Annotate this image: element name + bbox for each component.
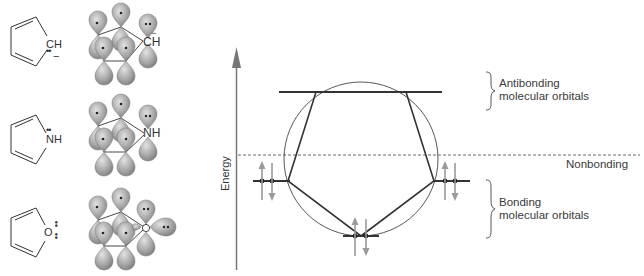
frost-circle: [284, 82, 438, 236]
energy-axis: [232, 47, 241, 270]
cyclopentadienyl-ring-structure: [11, 17, 47, 66]
cp-orbital-charge: −: [151, 27, 156, 39]
antibonding-label: Antibonding molecular orbitals: [499, 77, 589, 103]
antibonding-label-line1: Antibonding: [499, 77, 589, 90]
bonding-label: Bonding molecular orbitals: [499, 196, 589, 222]
electron-arrows: [259, 161, 459, 256]
bonding-brace-icon: [486, 180, 495, 238]
inscribed-pentagon: [288, 92, 434, 236]
furan-lone-pair-bottom: ••: [50, 233, 62, 239]
furan-lone-pair-top: ••: [50, 221, 62, 227]
bonding-label-line1: Bonding: [499, 196, 589, 209]
aromatic-heterocycles-frost-diagram: CH •• − CH − NH •• NH O •• •• Energy Ant…: [0, 0, 644, 276]
pyrrole-orbital-nh-label: NH: [143, 127, 160, 139]
energy-axis-label: Energy: [219, 156, 231, 191]
nonbonding-label: Nonbonding: [566, 158, 628, 171]
antibonding-label-line2: molecular orbitals: [499, 90, 589, 103]
pyrrole-ring-structure: [11, 115, 46, 164]
furan-ring-structure: [11, 208, 45, 257]
bonding-label-line2: molecular orbitals: [499, 209, 589, 222]
furan-p-orbitals: [89, 188, 176, 270]
antibonding-brace-icon: [486, 72, 495, 110]
pyrrole-lone-pair: ••: [46, 124, 50, 136]
cp-lone-pair: ••: [46, 45, 50, 57]
cp-charge: −: [53, 50, 59, 62]
